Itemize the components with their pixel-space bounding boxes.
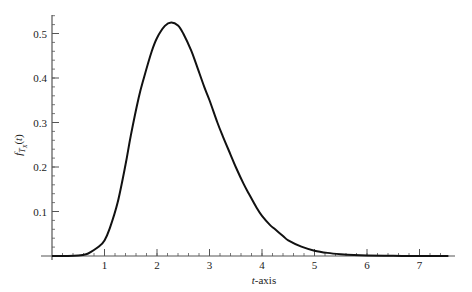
x-tick-label: 4 (259, 259, 265, 271)
x-axis: 1234567 (41, 249, 455, 271)
y-tick-label: 0.5 (33, 28, 47, 40)
x-tick-label: 3 (207, 259, 213, 271)
y-axis-label: fTX(t) (12, 134, 28, 156)
x-tick-label: 5 (312, 259, 318, 271)
y-tick-label: 0.3 (33, 117, 47, 129)
x-tick-label: 7 (417, 259, 423, 271)
x-tick-label: 1 (102, 259, 108, 271)
y-axis: 0.10.20.30.40.5 (33, 15, 59, 260)
x-axis-label: t-axis (252, 274, 276, 286)
y-tick-label: 0.2 (33, 161, 47, 173)
y-tick-label: 0.4 (33, 72, 47, 84)
chart: 0.10.20.30.40.5 1234567 t-axis fTX(t) (0, 0, 472, 292)
x-tick-label: 6 (364, 259, 370, 271)
density-curve (52, 22, 448, 256)
x-tick-label: 2 (154, 259, 160, 271)
y-tick-label: 0.1 (33, 206, 47, 218)
